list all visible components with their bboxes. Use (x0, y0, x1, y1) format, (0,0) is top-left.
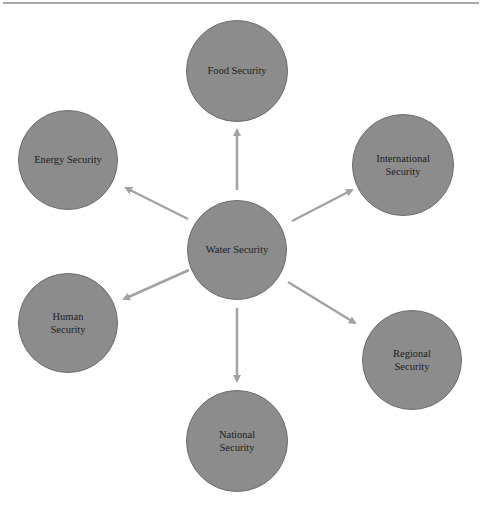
arrow-to-human (124, 270, 189, 299)
node-label: Regional Security (393, 347, 431, 373)
node-label: Energy Security (34, 153, 102, 166)
node-energy-security: Energy Security (18, 110, 118, 210)
node-label: Food Security (207, 64, 266, 77)
node-international-security: International Security (352, 114, 454, 216)
arrow-to-international (292, 190, 352, 221)
node-food-security: Food Security (186, 20, 288, 122)
node-national-security: National Security (186, 390, 288, 492)
node-label: National Security (219, 428, 255, 454)
node-water-security: Water Security (187, 200, 287, 300)
node-regional-security: Regional Security (362, 310, 462, 410)
node-label: Human Security (51, 310, 86, 336)
arrow-to-energy (126, 188, 188, 219)
arrow-to-regional (288, 282, 355, 323)
node-label: Water Security (206, 243, 268, 256)
node-human-security: Human Security (18, 273, 118, 373)
node-label: International Security (376, 152, 430, 178)
